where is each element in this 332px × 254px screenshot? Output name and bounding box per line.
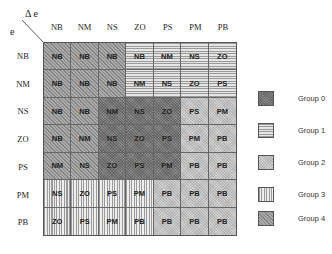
table-cell: ZO — [71, 180, 98, 207]
table-cell: NS — [126, 98, 153, 125]
legend-item: Group 0 — [258, 90, 332, 106]
table-cell: NB — [44, 43, 71, 70]
legend-label: Group 0 — [298, 94, 325, 103]
row-header: ZO — [10, 134, 36, 144]
diagonal-divider — [0, 0, 44, 43]
table-cell: PB — [154, 208, 181, 235]
column-header: NM — [71, 22, 99, 32]
table-cell: PM — [209, 98, 236, 125]
table-cell: NS — [71, 153, 98, 180]
column-header: PM — [182, 22, 210, 32]
legend-swatch-icon — [258, 187, 274, 202]
table-cell: PB — [209, 125, 236, 152]
table-cell: NB — [99, 43, 126, 70]
legend-item: Group 4 — [258, 210, 332, 226]
legend-label: Group 3 — [298, 190, 325, 199]
legend-item: Group 3 — [258, 186, 332, 202]
table-cell: NM — [154, 43, 181, 70]
table-cell: PB — [209, 180, 236, 207]
table-cell: NB — [44, 70, 71, 97]
table-cell: NS — [181, 43, 208, 70]
table-cell: PB — [209, 153, 236, 180]
table-cell: PB — [181, 180, 208, 207]
legend-swatch-icon — [258, 91, 274, 106]
table-cell: PS — [126, 153, 153, 180]
axis-corner: Δ e e — [0, 0, 44, 43]
table-cell: PS — [181, 98, 208, 125]
table-cell: NB — [44, 125, 71, 152]
table-cell: PS — [154, 125, 181, 152]
column-header: ZO — [126, 22, 154, 32]
column-header: PS — [154, 22, 182, 32]
row-header: PB — [10, 217, 36, 227]
row-header: PM — [10, 190, 36, 200]
legend-item: Group 1 — [258, 122, 332, 138]
table-cell: ZO — [209, 43, 236, 70]
column-header: PB — [209, 22, 237, 32]
table-cell: NS — [44, 180, 71, 207]
table-cell: PM — [99, 208, 126, 235]
rule-table-grid: NBNBNBNBNMNSZONBNBNBNMNSZOPSNBNBNMNSZOPS… — [43, 42, 237, 236]
row-header: NB — [10, 51, 36, 61]
table-cell: NB — [71, 98, 98, 125]
row-header: NM — [10, 79, 36, 89]
legend-label: Group 4 — [298, 214, 325, 223]
row-header: PS — [10, 162, 36, 172]
legend-label: Group 2 — [298, 158, 325, 167]
table-cell: ZO — [99, 153, 126, 180]
legend-swatch-icon — [258, 211, 274, 226]
table-cell: ZO — [126, 125, 153, 152]
table-cell: PS — [71, 208, 98, 235]
table-cell: NB — [99, 70, 126, 97]
table-cell: PS — [99, 180, 126, 207]
row-header: NS — [10, 106, 36, 116]
table-cell: NS — [99, 125, 126, 152]
legend-item: Group 2 — [258, 154, 332, 170]
table-cell: PB — [181, 153, 208, 180]
table-cell: PM — [154, 153, 181, 180]
table-cell: ZO — [181, 70, 208, 97]
table-cell: NB — [44, 98, 71, 125]
column-header: NB — [43, 22, 71, 32]
table-cell: NM — [71, 125, 98, 152]
legend-label: Group 1 — [298, 126, 325, 135]
table-cell: NM — [44, 153, 71, 180]
row-axis-label: e — [10, 26, 14, 37]
table-cell: NB — [126, 43, 153, 70]
table-cell: PS — [209, 70, 236, 97]
table-cell: PM — [181, 125, 208, 152]
table-cell: PB — [209, 208, 236, 235]
legend-swatch-icon — [258, 155, 274, 170]
table-cell: ZO — [154, 98, 181, 125]
table-cell: PM — [126, 180, 153, 207]
table-cell: ZO — [44, 208, 71, 235]
legend-swatch-icon — [258, 123, 274, 138]
table-cell: PB — [154, 180, 181, 207]
table-cell: NB — [71, 43, 98, 70]
table-cell: NM — [99, 98, 126, 125]
table-cell: PB — [181, 208, 208, 235]
table-cell: NB — [71, 70, 98, 97]
table-cell: NS — [154, 70, 181, 97]
column-header: NS — [98, 22, 126, 32]
table-cell: NM — [126, 70, 153, 97]
column-axis-label: Δ e — [25, 8, 38, 19]
table-cell: PB — [126, 208, 153, 235]
